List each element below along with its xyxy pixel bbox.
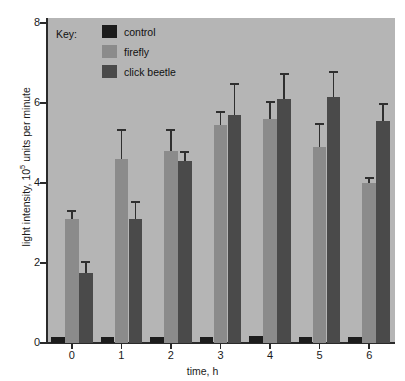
x-axis-tick-label: 6 [354,350,384,361]
bar-firefly-1 [115,159,129,343]
bar-click-beetle-2 [178,161,192,343]
y-axis-tick [40,182,48,184]
x-axis-tick-label: 5 [305,350,335,361]
error-bar-stem [170,129,172,151]
legend-swatch-icon [102,65,117,78]
legend-title: Key: [56,28,77,40]
error-bar-stem [85,261,87,273]
legend-swatch-icon [102,25,117,38]
error-bar-cap [315,123,324,125]
x-axis-tick-label: 2 [156,350,186,361]
error-bar-cap [180,151,189,153]
y-axis-tick-label: 8 [16,17,40,28]
caption-sliver [150,377,400,381]
error-bar-stem [184,151,186,161]
x-axis-tick-label: 1 [106,350,136,361]
legend-label: click beetle [124,66,176,78]
bar-control-0 [51,337,65,343]
y-axis-line [46,18,48,344]
legend-swatch-icon [102,45,117,58]
y-axis-title-prefix: light intensity, 10 [20,169,32,246]
error-bar-stem [234,83,236,115]
error-bar-stem [135,201,137,219]
bar-click-beetle-1 [129,219,143,343]
error-bar-cap [216,111,225,113]
error-bar-cap [166,129,175,131]
y-axis-tick [40,102,48,104]
x-axis-tick-label: 0 [57,350,87,361]
y-axis-tick [40,22,48,24]
y-axis-title-exponent: 5 [18,165,27,169]
error-bar-stem [220,111,222,125]
legend-label: control [124,26,156,38]
legend-label: firefly [124,46,149,58]
y-axis-tick [40,262,48,264]
x-axis-tick-label: 3 [206,350,236,361]
bar-control-6 [348,337,362,343]
bar-firefly-3 [214,125,228,343]
error-bar-cap [67,210,76,212]
x-axis-title: time, h [0,365,405,377]
error-bar-stem [382,103,384,121]
error-bar-cap [329,71,338,73]
error-bar-stem [283,73,285,99]
bar-firefly-0 [65,219,79,343]
bar-click-beetle-0 [79,273,93,343]
error-bar-cap [280,73,289,75]
error-bar-cap [379,103,388,105]
error-bar-cap [230,83,239,85]
bar-control-3 [200,337,214,343]
y-axis-tick [40,342,48,344]
bar-firefly-2 [164,151,178,343]
bar-click-beetle-5 [327,97,341,343]
bar-control-4 [249,336,263,343]
error-bar-stem [121,129,123,159]
error-bar-stem [319,123,321,147]
y-axis-title: light intensity, 105 units per minute [18,52,32,282]
bar-control-2 [150,337,164,343]
bar-click-beetle-3 [228,115,242,343]
bar-firefly-6 [362,183,376,343]
x-axis-tick-label: 4 [255,350,285,361]
error-bar-cap [117,129,126,131]
error-bar-stem [269,101,271,119]
bar-firefly-4 [263,119,277,343]
bar-control-5 [299,337,313,343]
error-bar-cap [81,261,90,263]
bar-control-1 [101,337,115,343]
error-bar-cap [365,177,374,179]
error-bar-cap [131,201,140,203]
error-bar-cap [266,101,275,103]
error-bar-stem [333,71,335,97]
bar-click-beetle-6 [376,121,390,343]
chart-figure: 02468 0123456 light intensity, 105 units… [0,0,405,381]
bar-click-beetle-4 [277,99,291,343]
y-axis-title-suffix: units per minute [20,87,32,165]
bar-firefly-5 [313,147,327,343]
y-axis-tick-label: 0 [16,337,40,348]
